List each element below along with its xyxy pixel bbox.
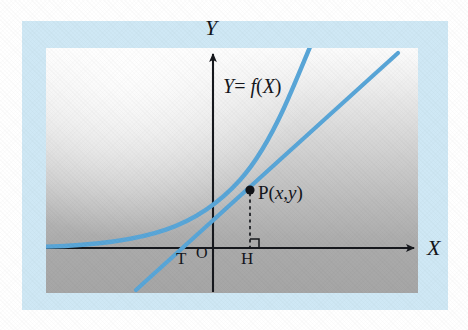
foot-of-perpendicular-label: H — [241, 250, 253, 267]
origin-label: O — [196, 245, 208, 261]
point-p-marker — [245, 185, 254, 194]
figure-container: Y X Y= f(X) P(x,y) T O H — [0, 0, 468, 330]
x-axis-label: X — [427, 237, 440, 259]
diagram-vector-layer — [0, 0, 468, 330]
right-angle-marker — [250, 239, 259, 248]
y-axis-label: Y — [205, 17, 217, 39]
tangent-intercept-label: T — [176, 250, 186, 267]
point-p-label: P(x,y) — [258, 183, 303, 202]
function-label: Y= f(X) — [223, 76, 282, 96]
